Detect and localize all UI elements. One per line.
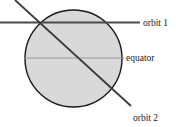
orbit-2-label: orbit 2 xyxy=(133,113,158,123)
diagram-canvas: orbit 1 equator orbit 2 xyxy=(0,0,176,127)
equator-label: equator xyxy=(126,53,155,63)
orbit-1-label: orbit 1 xyxy=(143,18,168,28)
orbit-diagram: orbit 1 equator orbit 2 xyxy=(0,0,176,127)
